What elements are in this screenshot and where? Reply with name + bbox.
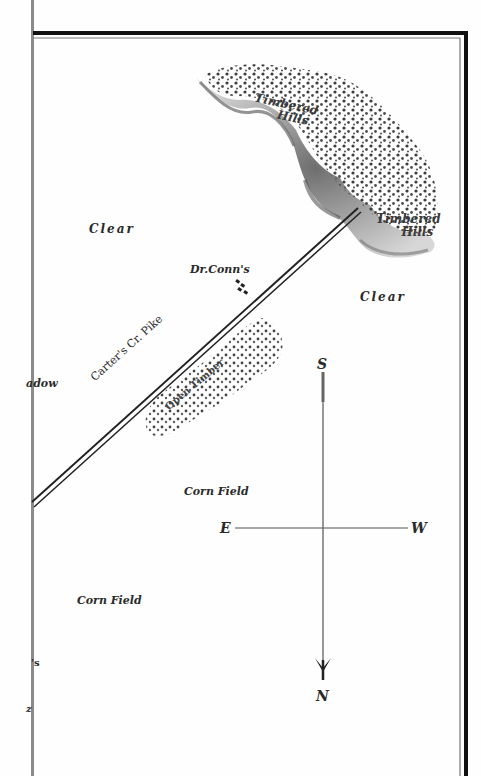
label-meadow-partial: adow — [26, 378, 58, 389]
label-clear-right: Clear — [360, 291, 406, 303]
label-dr-conns: Dr.Conn's — [190, 264, 250, 275]
label-partial-1: 's — [31, 658, 40, 668]
label-timbered-hills-lower: Timbered Hills — [376, 213, 441, 239]
compass — [235, 372, 408, 680]
open-timber-stipple — [146, 318, 283, 436]
label-clear-left: Clear — [89, 223, 135, 235]
road-carters-creek-pike — [32, 208, 361, 507]
compass-label-west: W — [411, 521, 427, 535]
compass-label-east: E — [220, 521, 231, 535]
label-corn-field-center: Corn Field — [184, 486, 249, 497]
compass-label-north: N — [316, 689, 329, 703]
compass-label-south: S — [317, 357, 327, 371]
label-line: Hills — [376, 226, 441, 239]
map-graphics — [0, 0, 481, 776]
dr-conns-house-marks — [235, 279, 248, 295]
label-partial-2: z — [26, 704, 32, 714]
label-corn-field-lower: Corn Field — [77, 595, 142, 606]
map-canvas: Timbered Hills Timbered Hills Clear Clea… — [0, 0, 481, 776]
